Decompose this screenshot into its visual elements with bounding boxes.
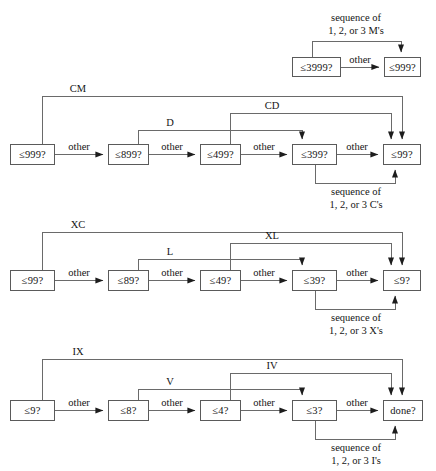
edge-label-other: other (253, 267, 275, 278)
edge-label-other: other (68, 141, 90, 152)
loop-label-line2: 1, 2, or 3 M's (328, 25, 384, 38)
node-le-9-row2[interactable]: ≤9? (383, 270, 421, 291)
node-le-99-row1[interactable]: ≤99? (383, 144, 421, 165)
edge-label-other: other (346, 141, 368, 152)
node-done[interactable]: done? (383, 400, 423, 421)
edge-label-other: other (161, 141, 183, 152)
arc-label-l: L (167, 246, 173, 257)
edge-label-other: other (349, 54, 371, 65)
loop-label-line1: sequence of (329, 312, 383, 325)
loop-label-i-sequence: sequence of 1, 2, or 3 I's (331, 442, 381, 467)
arc-label-iv: IV (266, 360, 277, 371)
edge-label-other: other (346, 397, 368, 408)
node-le-99[interactable]: ≤99? (10, 270, 55, 291)
arc-label-cm: CM (70, 83, 86, 94)
node-le-4[interactable]: ≤4? (200, 400, 241, 421)
edge-label-other: other (161, 267, 183, 278)
edge-label-other: other (346, 267, 368, 278)
arc-label-ix: IX (72, 346, 83, 357)
node-le-49[interactable]: ≤49? (200, 270, 241, 291)
loop-label-line2: 1, 2, or 3 X's (329, 325, 383, 338)
edge-label-other: other (68, 267, 90, 278)
edge-label-other: other (253, 397, 275, 408)
node-le-499[interactable]: ≤499? (200, 144, 241, 165)
arc-label-xc: XC (71, 219, 86, 230)
loop-label-line2: 1, 2, or 3 C's (329, 199, 382, 212)
node-le-399[interactable]: ≤399? (292, 144, 337, 165)
node-le-899[interactable]: ≤899? (108, 144, 149, 165)
loop-label-line1: sequence of (328, 12, 384, 25)
node-le-999-top[interactable]: ≤999? (384, 57, 421, 77)
arc-label-v: V (166, 376, 174, 387)
arc-label-d: D (166, 117, 174, 128)
edge-label-other: other (253, 141, 275, 152)
loop-label-c-sequence: sequence of 1, 2, or 3 C's (329, 186, 382, 211)
loop-label-line1: sequence of (329, 186, 382, 199)
node-le-39[interactable]: ≤39? (292, 270, 337, 291)
loop-label-line1: sequence of (331, 442, 381, 455)
node-le-3[interactable]: ≤3? (292, 400, 337, 421)
edge-label-other: other (68, 397, 90, 408)
node-le-999[interactable]: ≤999? (10, 144, 55, 165)
edge-label-other: other (161, 397, 183, 408)
loop-label-line2: 1, 2, or 3 I's (331, 455, 381, 468)
node-le-89[interactable]: ≤89? (108, 270, 149, 291)
diagram-canvas: ≤3999? ≤999? ≤999? ≤899? ≤499? ≤399? ≤99… (0, 0, 436, 471)
arc-label-cd: CD (265, 100, 280, 111)
loop-label-m-sequence: sequence of 1, 2, or 3 M's (328, 12, 384, 37)
arc-label-xl: XL (265, 230, 279, 241)
loop-label-x-sequence: sequence of 1, 2, or 3 X's (329, 312, 383, 337)
node-le-3999[interactable]: ≤3999? (292, 57, 341, 77)
node-le-8[interactable]: ≤8? (108, 400, 149, 421)
node-le-9[interactable]: ≤9? (10, 400, 55, 421)
